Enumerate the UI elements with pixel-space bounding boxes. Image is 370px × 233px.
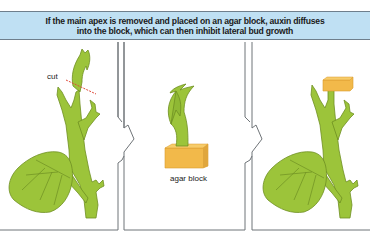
- connector-arrow-1: [118, 42, 134, 160]
- apex-2: [168, 84, 194, 146]
- plant-3: [263, 85, 358, 218]
- cut-label: cut: [47, 72, 58, 81]
- connector-arrow-2: [250, 42, 262, 160]
- agar-block-3: [323, 77, 353, 91]
- diagram-canvas: [0, 0, 370, 233]
- agar-block-2: [165, 144, 208, 168]
- agar-block-label: agar block: [170, 174, 207, 183]
